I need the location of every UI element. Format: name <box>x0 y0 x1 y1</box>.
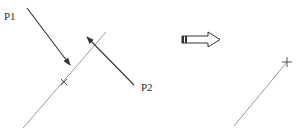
p1-pick-arrow <box>27 8 70 65</box>
original-line <box>23 32 106 128</box>
label-p1: P1 <box>4 11 16 22</box>
before-panel <box>23 8 134 128</box>
diagram-canvas <box>0 0 303 138</box>
result-line <box>234 62 287 126</box>
p2-pick-arrow <box>87 37 134 85</box>
label-p2: P2 <box>141 82 153 93</box>
transition-arrow-icon <box>182 32 220 47</box>
after-panel <box>234 57 292 126</box>
